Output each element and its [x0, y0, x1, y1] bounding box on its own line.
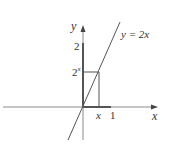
y-tick-2x-label: 2x: [72, 65, 82, 78]
x-tick-1-label: 1: [110, 109, 116, 121]
y-axis-label: y: [70, 19, 77, 33]
y-axis-arrow-icon: [81, 25, 86, 32]
diagram-svg: y x 2 2x x 1 y = 2x: [0, 0, 171, 155]
y-tick-2-label: 2: [74, 40, 80, 52]
x-tick-x-label: x: [95, 109, 101, 121]
curve-label: y = 2x: [120, 28, 149, 40]
x-axis-label: x: [151, 109, 158, 123]
diagram-canvas: y x 2 2x x 1 y = 2x: [0, 0, 171, 155]
